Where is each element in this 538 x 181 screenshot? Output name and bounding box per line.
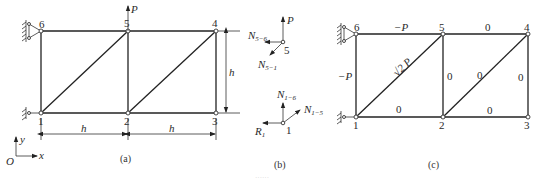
node-label-6: 6 [39, 18, 45, 30]
force-5-4: 0 [485, 21, 491, 33]
figure-footer-caption: ······ [255, 174, 269, 181]
node-label-4: 4 [524, 21, 530, 33]
dimension-label-bay2: h [169, 122, 175, 134]
node-label-5: 5 [124, 17, 130, 29]
force-label-R1: R1 [254, 125, 265, 139]
node-label-5: 5 [439, 21, 445, 33]
panel-caption-b: (b) [274, 159, 286, 171]
fbd5-node-label: 5 [284, 44, 290, 56]
force-6-1: −P [338, 70, 352, 82]
panel-c: 6 5 4 1 2 3 −P 0 −P √2 P 0 0 0 0 0 (c) [337, 21, 530, 171]
force-4-3: 0 [518, 71, 524, 83]
axis-x-label: x [38, 149, 44, 161]
fbd1-node-label: 1 [286, 124, 292, 136]
node-label-2: 2 [124, 115, 130, 127]
force-label-N1-6: N1−6 [276, 88, 297, 102]
free-body-node1 [263, 103, 300, 125]
panel-caption-a: (a) [120, 153, 131, 165]
truss-figure: 6 5 4 1 2 3 P h h h O y x [0, 0, 538, 181]
force-label-N5-6: N5−6 [247, 29, 268, 43]
panel-caption-c: (c) [428, 159, 439, 171]
truss-members [41, 31, 216, 113]
dimension-label-height: h [229, 66, 235, 78]
truss-members [356, 34, 528, 117]
node-label-3: 3 [212, 115, 218, 127]
axis-origin-label: O [6, 155, 14, 167]
panel-a: 6 5 4 1 2 3 P h h h O y x [6, 3, 240, 167]
force-label-N1-5: N1−5 [303, 103, 324, 117]
node-label-4: 4 [212, 17, 218, 29]
panel-b: P 5 N5−6 N5−1 1 N1−6 N1−5 R1 (b) [247, 14, 324, 171]
fbd5-load-label: P [286, 14, 294, 26]
node-label-1: 1 [353, 119, 359, 131]
dimension-label-bay1: h [81, 122, 87, 134]
force-2-4: 0 [477, 69, 483, 81]
force-1-5: √2 P [390, 55, 414, 78]
force-1-2: 0 [396, 103, 402, 115]
truss-nodes [354, 32, 530, 119]
force-label-N5-1: N5−1 [257, 58, 277, 72]
force-2-3: 0 [487, 104, 493, 116]
node-label-2: 2 [439, 119, 445, 131]
axis-y-label: y [19, 133, 25, 145]
free-body-node5 [265, 17, 285, 55]
node-label-6: 6 [354, 21, 360, 33]
load-label: P [130, 3, 138, 15]
force-6-5: −P [394, 21, 408, 33]
node-label-3: 3 [524, 119, 530, 131]
force-5-2: 0 [447, 70, 453, 82]
